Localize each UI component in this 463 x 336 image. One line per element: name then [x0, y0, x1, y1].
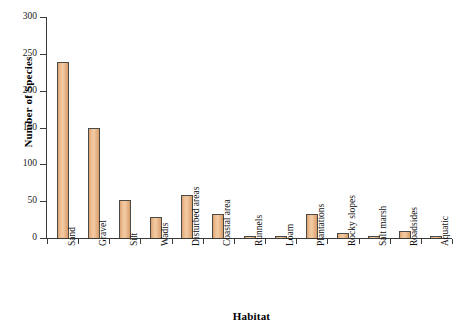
x-axis-tick — [421, 239, 422, 244]
y-axis-tick-label: 150 — [0, 123, 37, 133]
x-axis-category-label: Salt marsh — [378, 206, 388, 246]
y-axis-tick — [40, 238, 47, 239]
x-axis-tick — [359, 239, 360, 244]
x-axis-tick — [78, 239, 79, 244]
x-axis-tick — [327, 239, 328, 244]
x-axis-tick — [172, 239, 173, 244]
x-axis-tick — [390, 239, 391, 244]
x-axis-tick — [296, 239, 297, 244]
y-axis-tick-label: 300 — [0, 12, 37, 22]
y-axis-tick-label: 50 — [0, 196, 37, 206]
x-axis-category-label: Wadis — [160, 222, 170, 246]
x-axis-tick — [109, 239, 110, 244]
x-axis-category-label: Gravel — [98, 220, 108, 246]
x-axis-category-label: Roadsides — [409, 207, 419, 246]
bar — [57, 62, 69, 238]
y-axis-tick-label: 100 — [0, 159, 37, 169]
x-axis-category-label: Plantations — [316, 204, 326, 246]
x-axis-tick — [265, 239, 266, 244]
x-axis-tick — [203, 239, 204, 244]
x-axis-category-label: Aquatic — [440, 216, 450, 246]
x-axis-tick — [234, 239, 235, 244]
plot-area — [47, 17, 452, 238]
x-axis-title: Habitat — [0, 310, 463, 322]
y-axis-tick — [40, 91, 47, 92]
x-axis-tick — [140, 239, 141, 244]
x-axis-category-label: Disturbed areas — [191, 187, 201, 246]
y-axis-tick-label: 250 — [0, 49, 37, 59]
x-axis-tick — [452, 239, 453, 244]
x-axis-category-label: Loam — [285, 224, 295, 246]
y-axis-tick-label: 200 — [0, 86, 37, 96]
y-axis-tick — [40, 164, 47, 165]
y-axis-tick — [40, 128, 47, 129]
y-axis-tick-label: 0 — [0, 233, 37, 243]
x-axis-category-label: Silt — [129, 233, 139, 246]
y-axis-tick — [40, 54, 47, 55]
y-axis-tick — [40, 201, 47, 202]
bar-chart: Number of Species 050100150200250300 San… — [0, 0, 463, 336]
x-axis-category-label: Runnels — [254, 215, 264, 246]
x-axis-category-label: Coastal area — [222, 199, 232, 246]
x-axis-tick — [47, 239, 48, 244]
x-axis-category-label: Rocky slopes — [347, 195, 357, 246]
y-axis-tick — [40, 17, 47, 18]
x-axis-category-label: Sand — [67, 227, 77, 246]
